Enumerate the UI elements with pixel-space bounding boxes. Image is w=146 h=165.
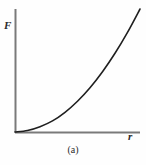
panel-caption: (a) <box>0 145 146 155</box>
plot-area <box>0 0 146 165</box>
figure-panel-a: F r (a) <box>0 0 146 165</box>
x-axis-label: r <box>128 131 132 142</box>
y-axis-label: F <box>4 20 11 31</box>
force-curve <box>15 9 140 132</box>
